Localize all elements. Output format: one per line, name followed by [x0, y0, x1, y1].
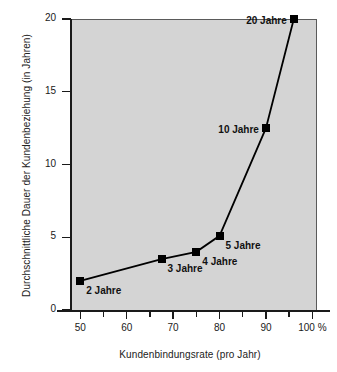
chart-page: Durchschnittliche Dauer der Kundenbezieh… — [0, 0, 337, 372]
data-point-marker — [216, 232, 224, 240]
data-point-marker — [76, 277, 84, 285]
data-point-label: 5 Jahre — [226, 239, 261, 250]
data-point-label: 2 Jahre — [86, 284, 121, 295]
data-point-label: 3 Jahre — [168, 263, 203, 274]
data-point-label: 10 Jahre — [218, 124, 259, 135]
data-point-label: 4 Jahre — [202, 255, 237, 266]
x-axis-title: Kundenbindungsrate (pro Jahr) — [55, 349, 325, 360]
series-line — [0, 0, 337, 372]
data-point-marker — [192, 248, 200, 256]
data-point-marker — [158, 255, 166, 263]
data-point-label: 20 Jahre — [246, 15, 287, 26]
data-point-marker — [262, 124, 270, 132]
data-point-marker — [290, 15, 298, 23]
